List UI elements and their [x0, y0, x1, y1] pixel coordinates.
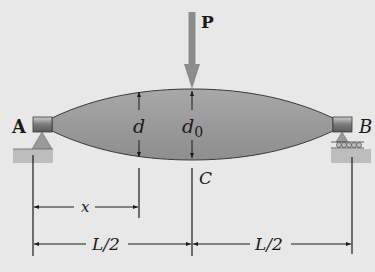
end-block-left: [33, 117, 52, 132]
label-right-half: L/2: [254, 234, 283, 254]
end-block-right: [333, 117, 352, 132]
load-label: P: [201, 12, 214, 32]
load-arrow-p: [184, 12, 200, 89]
label-left-half: L/2: [91, 234, 120, 254]
label-d: d: [133, 115, 145, 137]
label-a: A: [11, 116, 27, 137]
label-x: x: [81, 198, 90, 216]
label-b: B: [358, 116, 372, 137]
beam-diagram: P A B d d0 C: [0, 0, 375, 272]
label-c: C: [199, 168, 212, 188]
